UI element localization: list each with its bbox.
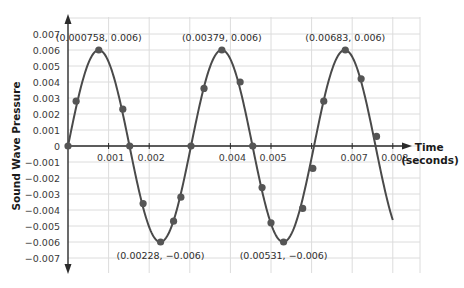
x-axis-title-line1: Time <box>415 141 444 153</box>
data-point <box>218 46 225 53</box>
point-annotation: (0.00379, 0.006) <box>182 32 262 43</box>
data-point <box>177 194 184 201</box>
data-point <box>237 78 244 85</box>
y-tick-label: 0 <box>54 141 60 152</box>
data-point <box>280 238 287 245</box>
data-point <box>64 142 71 149</box>
y-tick-label: 0.005 <box>33 61 60 72</box>
data-point <box>140 200 147 207</box>
y-tick-label: 0.001 <box>33 125 60 136</box>
data-point <box>200 85 207 92</box>
data-point <box>320 98 327 105</box>
y-tick-label: 0.006 <box>33 45 60 56</box>
data-point <box>249 142 256 149</box>
y-tick-label: −0.007 <box>25 253 60 264</box>
x-axis-title-line2: (seconds) <box>401 154 459 166</box>
data-point <box>187 142 194 149</box>
data-point <box>358 75 365 82</box>
y-axis-arrow-up <box>65 14 72 24</box>
x-tick-label: 0.005 <box>259 152 286 163</box>
data-point <box>157 238 164 245</box>
data-point <box>170 218 177 225</box>
sound-wave-chart: 0.0070.0060.0050.0040.0030.0020.0010−0.0… <box>0 0 464 288</box>
y-tick-label: 0.004 <box>33 77 60 88</box>
y-tick-label: −0.004 <box>25 205 60 216</box>
data-point <box>373 133 380 140</box>
x-axis-arrow <box>402 143 412 150</box>
y-tick-label: −0.001 <box>25 157 60 168</box>
data-point <box>258 184 265 191</box>
x-axis-title: Time (seconds) <box>401 141 459 166</box>
y-axis-arrow-down <box>65 264 72 274</box>
data-point <box>126 142 133 149</box>
y-tick-label: 0.002 <box>33 109 60 120</box>
y-tick-label: −0.006 <box>25 237 60 248</box>
axes <box>65 14 413 274</box>
grid-lines <box>68 17 420 273</box>
data-point <box>309 165 316 172</box>
x-tick-label: 0.001 <box>97 152 124 163</box>
x-tick-labels: 0.0010.0020.0040.0050.0070.008 <box>97 152 408 163</box>
data-point <box>73 98 80 105</box>
data-point <box>119 106 126 113</box>
y-tick-label: 0.003 <box>33 93 60 104</box>
data-point <box>342 46 349 53</box>
x-tick-label: 0.002 <box>138 152 165 163</box>
y-axis-title: Sound Wave Pressure <box>10 81 22 210</box>
y-tick-label: −0.005 <box>25 221 60 232</box>
y-tick-label: −0.002 <box>25 173 60 184</box>
point-annotation: (0.00228, −0.006) <box>117 250 205 261</box>
x-tick-label: 0.004 <box>219 152 246 163</box>
point-annotation: (0.000758, 0.006) <box>56 32 142 43</box>
y-tick-labels: 0.0070.0060.0050.0040.0030.0020.0010−0.0… <box>25 29 60 264</box>
point-annotation: (0.00683, 0.006) <box>305 32 385 43</box>
data-point <box>267 219 274 226</box>
data-point <box>95 46 102 53</box>
data-point <box>299 205 306 212</box>
y-tick-label: −0.003 <box>25 189 60 200</box>
point-annotation: (0.00531, −0.006) <box>240 250 328 261</box>
x-tick-label: 0.007 <box>341 152 368 163</box>
